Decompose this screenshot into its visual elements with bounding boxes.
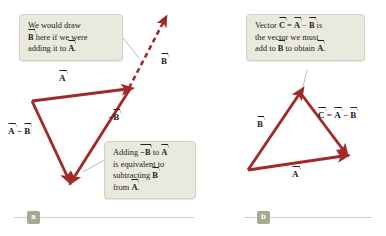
- callout-adding-neg-b: Adding −B to A is equivalent to subtract…: [104, 141, 196, 199]
- callout-a-line-1: We would draw: [28, 20, 115, 32]
- label-negB-glyph: B: [113, 112, 119, 122]
- label-C-equals: =: [325, 110, 335, 120]
- label-C-B-glyph: B: [350, 110, 356, 120]
- callout-a-text-1: We would draw: [28, 21, 81, 30]
- callout-c-text-2: the vector we must: [255, 33, 319, 42]
- vector-symbol-B: B: [28, 32, 34, 44]
- vector-symbol-B-2: B: [152, 170, 158, 182]
- callout-a-line-3: adding it to A.: [28, 43, 115, 55]
- vector-symbol-A-5: A: [317, 43, 323, 55]
- callout-c-line-1: Vector C = A − B is: [255, 20, 357, 32]
- label-vector-B-dashed: B: [161, 56, 167, 66]
- callout-b-text-2: is equivalent to: [113, 160, 164, 169]
- callout-c-line-2: the vector we must: [255, 32, 357, 44]
- callout-b-line-4: from A.: [113, 182, 188, 194]
- vector-symbol-neg-B: −B: [140, 147, 150, 159]
- vector-symbol-A-3: A: [131, 182, 137, 194]
- vector-symbol-A-2: A: [161, 147, 167, 159]
- callout-c-leader-line: [302, 70, 307, 91]
- callout-c-text-3: add to: [255, 44, 278, 53]
- panel-badge-a: a: [27, 211, 40, 224]
- callout-b-text-1-mid: to: [151, 148, 162, 157]
- label-vector-neg-B: −B: [108, 112, 119, 122]
- vector-symbol-A: A: [68, 43, 74, 55]
- label-B2-glyph: B: [257, 119, 263, 129]
- callout-c-line-3: add to B to obtain A.: [255, 43, 357, 55]
- callout-c-text-3-end: .: [323, 44, 325, 53]
- callout-b-line-2: is equivalent to: [113, 159, 188, 171]
- callout-a-text-3: adding it to: [28, 44, 68, 53]
- vector-B-dashed: [129, 21, 164, 88]
- label-C-glyph: C: [318, 110, 325, 120]
- footer-rule-left-b: [244, 217, 257, 218]
- vector-A-panel-a: [32, 89, 127, 101]
- callout-b-text-4-end: .: [137, 183, 139, 192]
- panel-footer-a: a: [14, 209, 194, 225]
- callout-b-line-1: Adding −B to A: [113, 147, 188, 159]
- panel-footer-b: b: [244, 209, 372, 225]
- footer-rule-b: [270, 217, 372, 218]
- callout-a-leader-line: [123, 38, 139, 58]
- vector-B-panel-b: [248, 93, 300, 170]
- label-AmB-op: −: [15, 126, 25, 136]
- callout-a-line-2: B here if we were: [28, 32, 115, 44]
- label-AmB-B-glyph: B: [24, 126, 30, 136]
- vector-symbol-B-4: B: [278, 43, 284, 55]
- callout-b-text-3: subtracting: [113, 171, 152, 180]
- callout-c-equals: =: [285, 21, 294, 30]
- label-C-minus: −: [341, 110, 351, 120]
- callout-b-text-4: from: [113, 183, 131, 192]
- vector-A-panel-b: [248, 156, 343, 170]
- vector-C-panel-b: [299, 91, 344, 151]
- callout-a-text-2: here if we were: [34, 33, 88, 42]
- label-A2-glyph: A: [292, 169, 299, 179]
- label-A-glyph: A: [59, 73, 66, 83]
- callout-b-leader-line: [83, 160, 104, 172]
- vector-symbol-B-3: B: [309, 20, 315, 32]
- vector-A-minus-B-resultant: [32, 101, 68, 178]
- vector-symbol-C: C: [279, 20, 285, 32]
- callout-a-text-3-end: .: [74, 44, 76, 53]
- label-C-A-glyph: A: [334, 110, 341, 120]
- label-vector-A-panel-a: A: [59, 73, 66, 83]
- label-vector-A-panel-b: A: [292, 169, 299, 179]
- callout-b-line-3: subtracting B: [113, 170, 188, 182]
- callout-c-text-1-end: is: [315, 21, 323, 30]
- callout-c-text-3-mid: to obtain: [283, 44, 317, 53]
- label-vector-A-minus-B: A − B: [8, 126, 30, 136]
- vector-symbol-A-4: A: [294, 20, 300, 32]
- callout-b-text-1: Adding: [113, 148, 140, 157]
- footer-rule-a: [40, 217, 194, 218]
- callout-vector-c-definition: Vector C = A − B is the vector we must a…: [246, 14, 365, 61]
- label-vector-C-equation: C = A − B: [318, 110, 356, 120]
- figure-canvas: We would draw B here if we were adding i…: [0, 0, 386, 236]
- panel-badge-b: b: [257, 211, 270, 224]
- label-AmB-A-glyph: A: [8, 126, 15, 136]
- label-B-dashed-glyph: B: [161, 56, 167, 66]
- callout-draw-b-here: We would draw B here if we were adding i…: [19, 14, 123, 61]
- callout-c-text-1: Vector: [255, 21, 279, 30]
- label-vector-B-panel-b: B: [257, 119, 263, 129]
- footer-rule-left-a: [14, 217, 27, 218]
- callout-c-minus: −: [300, 21, 309, 30]
